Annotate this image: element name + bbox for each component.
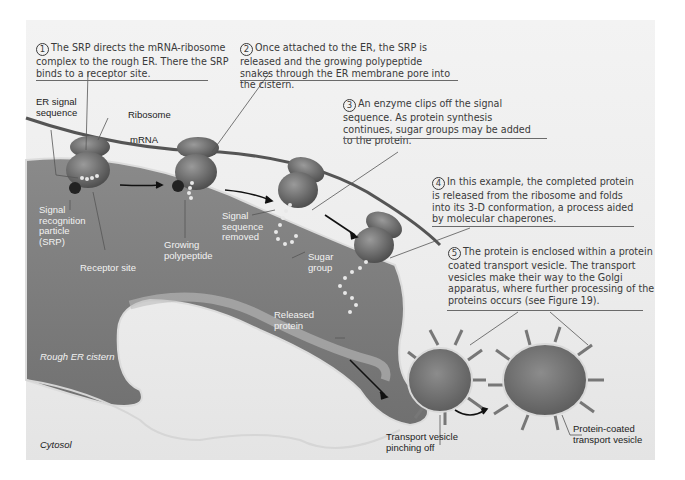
label-sugar-group: Sugar group: [308, 252, 344, 273]
step-number-badge: 2: [240, 43, 253, 56]
label-rough-er-cistern: Rough ER cistern: [40, 352, 114, 363]
step-1-caption: 1The SRP directs the mRNA-ribosome compl…: [36, 42, 251, 79]
step-3-divider: [343, 138, 547, 139]
label-released-protein: Released protein: [274, 310, 324, 331]
label-transport-vesicle-pinching-off: Transport vesicle pinching off: [386, 432, 466, 453]
step-5-divider: [447, 310, 643, 311]
step-4-divider: [432, 226, 634, 227]
label-cytosol: Cytosol: [40, 440, 72, 451]
ribosome-2: [172, 137, 219, 192]
step-2-divider: [240, 80, 458, 81]
step-2-caption: 2Once attached to the ER, the SRP is rel…: [240, 42, 455, 91]
label-growing-polypeptide: Growing polypeptide: [164, 240, 224, 261]
protein-coated-transport-vesicle: [488, 327, 604, 430]
step-5-caption: 5The protein is enclosed within a protei…: [448, 246, 663, 306]
step-number-badge: 3: [343, 99, 356, 112]
label-protein-coated-transport-vesicle: Protein-coated transport vesicle: [573, 424, 651, 445]
step-number-badge: 4: [432, 177, 445, 190]
step-number-badge: 5: [448, 247, 461, 260]
step-4-caption: 4In this example, the completed protein …: [432, 176, 637, 225]
label-mrna: mRNA: [130, 135, 158, 146]
step-number-badge: 1: [36, 43, 49, 56]
step-3-caption: 3An enzyme clips off the signal sequence…: [343, 98, 543, 147]
transport-vesicle-pinching-off: [408, 330, 486, 425]
label-ribosome: Ribosome: [128, 110, 171, 121]
label-receptor-site: Receptor site: [80, 263, 136, 274]
label-srp: Signal recognition particle (SRP): [39, 205, 87, 247]
step-1-divider: [36, 80, 208, 81]
rough-er-cistern-shape: [26, 158, 428, 448]
label-er-signal-sequence: ER signal sequence: [36, 97, 84, 118]
label-signal-sequence-removed: Signal sequence removed: [222, 211, 272, 243]
